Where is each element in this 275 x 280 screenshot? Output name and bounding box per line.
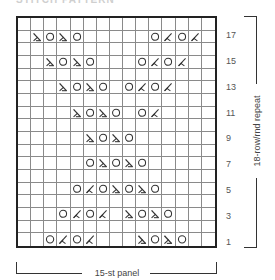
chart-cell [176, 132, 189, 145]
chart-cell [57, 195, 70, 208]
chart-cell [18, 195, 31, 208]
chart-cell [202, 233, 215, 246]
chart-cell [57, 81, 70, 94]
chart-cell [189, 183, 202, 196]
chart-cell [176, 233, 189, 246]
chart-cell [189, 170, 202, 183]
chart-cell [202, 69, 215, 82]
chart-cell [44, 119, 57, 132]
chart-cell [189, 43, 202, 56]
chart-cell [123, 145, 136, 158]
chart-cell [44, 43, 57, 56]
chart-cell [149, 132, 162, 145]
chart-cell [44, 221, 57, 234]
chart-cell [44, 195, 57, 208]
chart-cell [202, 56, 215, 69]
chart-cell [176, 157, 189, 170]
row-number-label: 1 [226, 237, 231, 247]
chart-cell [202, 208, 215, 221]
repeat-bracket-top [244, 16, 257, 84]
chart-cell [97, 145, 110, 158]
chart-cell [97, 81, 110, 94]
chart-cell [44, 208, 57, 221]
chart-cell [31, 81, 44, 94]
chart-cell [149, 56, 162, 69]
panel-bracket-right [150, 262, 217, 274]
chart-cell [18, 56, 31, 69]
chart-title-cropped: STITCH PATTERN [16, 0, 115, 5]
chart-cell [31, 31, 44, 44]
chart-cell [57, 157, 70, 170]
chart-cell [176, 69, 189, 82]
chart-cell [57, 69, 70, 82]
chart-cell [18, 31, 31, 44]
chart-cell [84, 31, 97, 44]
chart-cell [110, 18, 123, 31]
chart-cell [110, 31, 123, 44]
chart-cell [202, 145, 215, 158]
chart-cell [97, 56, 110, 69]
chart-cell [84, 94, 97, 107]
chart-cell [110, 233, 123, 246]
chart-cell [31, 119, 44, 132]
chart-cell [202, 132, 215, 145]
chart-cell [71, 81, 84, 94]
chart-cell [202, 221, 215, 234]
chart-cell [202, 107, 215, 120]
chart-cell [149, 43, 162, 56]
chart-cell [31, 56, 44, 69]
repeat-bracket-bottom [244, 178, 257, 248]
chart-cell [57, 56, 70, 69]
chart-cell [18, 183, 31, 196]
chart-cell [57, 31, 70, 44]
chart-cell [57, 43, 70, 56]
chart-cell [97, 208, 110, 221]
chart-cell [136, 170, 149, 183]
chart-cell [189, 195, 202, 208]
chart-cell [18, 221, 31, 234]
chart-cell [18, 233, 31, 246]
chart-cell [149, 221, 162, 234]
chart-cell [149, 195, 162, 208]
chart-cell [123, 170, 136, 183]
chart-cell [123, 69, 136, 82]
chart-cell [176, 208, 189, 221]
chart-cell [149, 145, 162, 158]
chart-cell [71, 69, 84, 82]
chart-cell [162, 56, 175, 69]
chart-cell [31, 183, 44, 196]
chart-cell [84, 221, 97, 234]
chart-cell [162, 94, 175, 107]
chart-cell [97, 233, 110, 246]
chart-cell [18, 170, 31, 183]
chart-cell [176, 107, 189, 120]
row-number-label: 11 [226, 108, 235, 118]
chart-cell [71, 208, 84, 221]
chart-cell [110, 43, 123, 56]
chart-cell [57, 132, 70, 145]
chart-cell [71, 145, 84, 158]
chart-cell [136, 157, 149, 170]
chart-cell [189, 107, 202, 120]
chart-cell [18, 119, 31, 132]
chart-cell [162, 132, 175, 145]
chart-cell [162, 31, 175, 44]
chart-cell [136, 94, 149, 107]
chart-cell [123, 56, 136, 69]
chart-cell [57, 221, 70, 234]
chart-cell [149, 170, 162, 183]
chart-cell [110, 94, 123, 107]
chart-cell [149, 157, 162, 170]
chart-cell [176, 31, 189, 44]
chart-cell [71, 107, 84, 120]
chart-cell [189, 56, 202, 69]
chart-cell [110, 157, 123, 170]
chart-cell [71, 31, 84, 44]
chart-cell [136, 107, 149, 120]
chart-cell [31, 221, 44, 234]
chart-cell [162, 18, 175, 31]
chart-cell [84, 183, 97, 196]
chart-cell [44, 69, 57, 82]
chart-cell [57, 18, 70, 31]
chart-cell [110, 170, 123, 183]
